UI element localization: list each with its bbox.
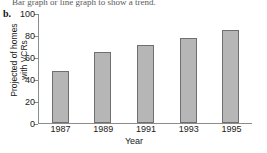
bar-1991 xyxy=(137,45,154,123)
bar-chart-figure: Projected of homes with VCRs 100 80 60 4… xyxy=(0,12,267,153)
bar-slot-1991 xyxy=(124,14,167,123)
bar-slot-1995 xyxy=(209,14,252,123)
plot-area: 100 80 60 40 20 0 xyxy=(38,14,252,124)
x-tick-label-1995: 1995 xyxy=(210,124,253,135)
bar-1987 xyxy=(52,71,69,123)
bar-slot-1993 xyxy=(167,14,210,123)
x-tick-label-1993: 1993 xyxy=(167,124,210,135)
instruction-text: Bar graph or line graph to show a trend. xyxy=(12,0,267,8)
x-axis-tick-labels: 1987 1989 1991 1993 1995 xyxy=(39,124,253,135)
x-tick-label-1987: 1987 xyxy=(39,124,82,135)
bar-1993 xyxy=(180,38,197,123)
x-tick-label-1989: 1989 xyxy=(82,124,125,135)
x-tick-label-1991: 1991 xyxy=(125,124,168,135)
bar-series xyxy=(39,14,252,123)
y-tick-label-60: 60 xyxy=(25,54,35,63)
y-tick-label-80: 80 xyxy=(25,32,35,41)
y-tick-label-40: 40 xyxy=(25,76,35,85)
y-tick-label-100: 100 xyxy=(20,10,35,19)
bar-slot-1989 xyxy=(82,14,125,123)
bar-1995 xyxy=(222,30,239,123)
y-tick-label-0: 0 xyxy=(30,120,35,129)
y-axis-title-line-1: Projected of homes xyxy=(9,8,19,112)
bar-slot-1987 xyxy=(39,14,82,123)
bar-1989 xyxy=(94,52,111,123)
y-tick-label-20: 20 xyxy=(25,98,35,107)
x-axis-title: Year xyxy=(39,136,229,146)
